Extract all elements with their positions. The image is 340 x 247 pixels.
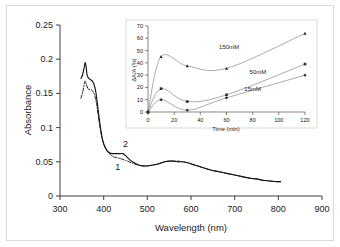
inset-xaxis-title: Time (min) — [212, 126, 240, 132]
main-ytick-4: 0.2 — [40, 54, 53, 64]
main-y-ticks — [56, 25, 60, 196]
main-xtick-900: 900 — [314, 204, 329, 214]
main-ytick-3: 0.15 — [35, 88, 53, 98]
main-ytick-1: 0.05 — [35, 157, 53, 167]
main-xtick-700: 700 — [227, 204, 242, 214]
main-xtick-500: 500 — [140, 204, 155, 214]
main-xtick-800: 800 — [271, 204, 286, 214]
inset-xtick-80: 80 — [250, 117, 256, 123]
inset-series-label-15mm: 15mM — [244, 86, 261, 92]
inset-marker — [186, 100, 189, 103]
inset-xtick-60: 60 — [223, 117, 229, 123]
inset-ytick-0: 0 — [140, 109, 143, 115]
inset-ytick-50: 50 — [137, 48, 143, 54]
main-xtick-300: 300 — [52, 204, 67, 214]
main-xtick-400: 400 — [96, 204, 111, 214]
inset-ytick-10: 10 — [137, 97, 143, 103]
inset-ytick-60: 60 — [137, 35, 143, 41]
main-yaxis-title: Absorbance — [22, 85, 33, 136]
curve-label-1: 1 — [115, 162, 120, 172]
inset-series-label-50mm: 50mM — [250, 69, 267, 75]
inset-marker — [225, 94, 228, 97]
inset-marker — [160, 87, 163, 90]
main-ytick-2: 0.1 — [40, 123, 53, 133]
inset-series-label-150mm: 150mM — [219, 44, 239, 50]
inset-yaxis-title: ΔA/A (%) — [131, 58, 137, 82]
inset-xtick-20: 20 — [171, 117, 177, 123]
inset-ytick-30: 30 — [137, 72, 143, 78]
main-ytick-0: 0 — [48, 191, 53, 201]
curve-label-2: 2 — [123, 139, 128, 149]
inset-ytick-20: 20 — [137, 84, 143, 90]
chart-canvas: 0 0.05 0.1 0.15 0.2 0.25 300 400 500 600… — [0, 0, 340, 247]
main-x-ticks — [60, 196, 322, 200]
inset-ytick-70: 70 — [137, 23, 143, 29]
inset-xtick-40: 40 — [197, 117, 203, 123]
inset-marker — [304, 63, 307, 66]
inset-xtick-0: 0 — [146, 117, 149, 123]
inset-plot: 0 10 20 30 40 50 60 70 0 20 40 60 80 100 — [126, 20, 317, 132]
main-xtick-600: 600 — [183, 204, 198, 214]
main-ytick-5: 0.25 — [35, 20, 53, 30]
figure-container: 0 0.05 0.1 0.15 0.2 0.25 300 400 500 600… — [0, 0, 340, 247]
inset-xtick-120: 120 — [300, 117, 309, 123]
inset-xtick-100: 100 — [274, 117, 283, 123]
inset-ytick-40: 40 — [137, 60, 143, 66]
main-xaxis-title: Wavelength (nm) — [155, 222, 227, 233]
